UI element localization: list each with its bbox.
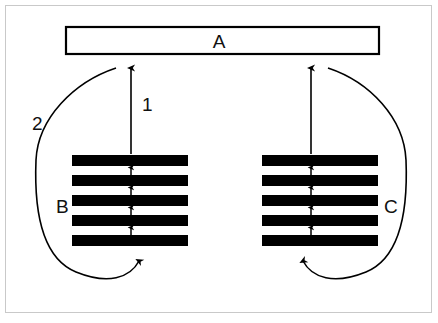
- stack-b-bar-3: [72, 195, 188, 206]
- stack-c-bar-2: [262, 175, 378, 186]
- stack-c-bar-5: [262, 235, 378, 246]
- stack-c-bar-1: [262, 155, 378, 166]
- stack-b-bar-2: [72, 175, 188, 186]
- arrow-2-label: 2: [32, 114, 43, 133]
- stack-c-bar-3: [262, 195, 378, 206]
- arrow-2-right-path: [303, 68, 406, 279]
- stack-c-bars: [262, 155, 378, 246]
- stack-b-bar-4: [72, 215, 188, 226]
- stack-b-bars: [72, 155, 188, 246]
- diagram-figure: A B C 1 2: [0, 0, 438, 323]
- stack-c-label: C: [384, 197, 398, 216]
- stack-b-bar-5: [72, 235, 188, 246]
- arrow-2-left-path: [36, 68, 139, 279]
- arrow-1-label: 1: [142, 95, 153, 114]
- stack-b-label: B: [56, 197, 69, 216]
- stack-b-bar-1: [72, 155, 188, 166]
- stack-c-bar-4: [262, 215, 378, 226]
- box-a-label: A: [0, 32, 438, 51]
